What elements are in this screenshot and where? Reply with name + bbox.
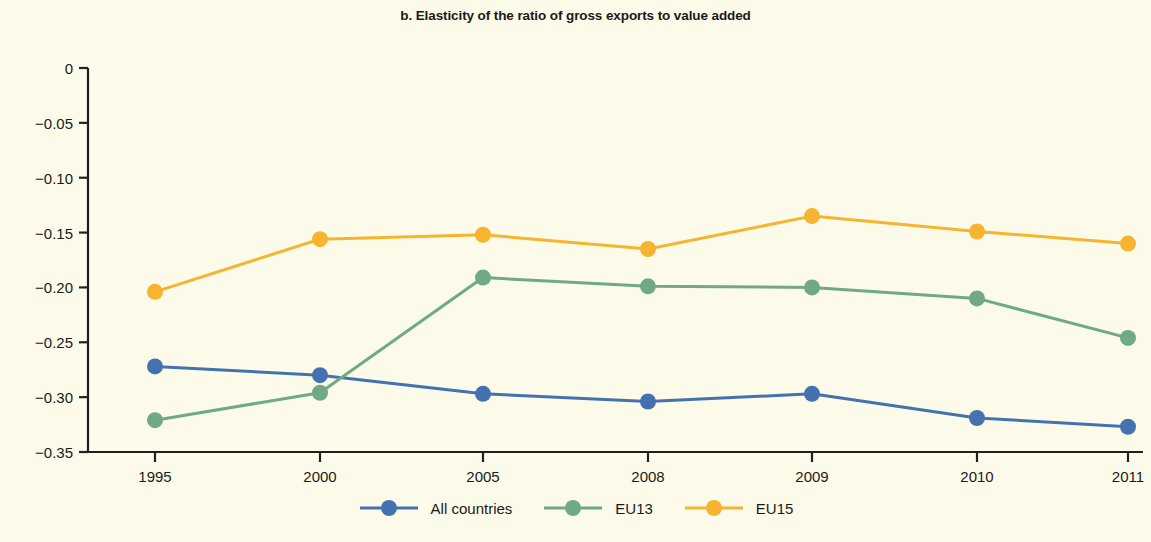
legend-label: EU15 [756, 500, 794, 517]
data-point [804, 208, 820, 224]
x-tick-label: 2000 [303, 468, 336, 485]
y-tick-label: −0.30 [0, 389, 73, 406]
y-tick-label: −0.20 [0, 279, 73, 296]
data-point [147, 284, 163, 300]
data-point [640, 241, 656, 257]
data-point [475, 227, 491, 243]
data-point [147, 358, 163, 374]
legend-swatch-icon [542, 498, 604, 518]
data-point [475, 386, 491, 402]
legend-item-eu15[interactable]: EU15 [683, 498, 794, 518]
x-tick-label: 1995 [138, 468, 171, 485]
data-point [147, 412, 163, 428]
legend-item-all-countries[interactable]: All countries [358, 498, 513, 518]
x-tick-label: 2009 [795, 468, 828, 485]
data-point [1120, 236, 1136, 252]
data-point [312, 385, 328, 401]
legend-swatch-icon [683, 498, 745, 518]
y-tick-label: 0 [0, 60, 73, 77]
y-tick-marks [79, 68, 88, 452]
plot-area [0, 0, 1151, 542]
x-tick-marks [155, 452, 1128, 462]
data-point [1120, 419, 1136, 435]
legend-swatch-icon [358, 498, 420, 518]
x-tick-label: 2010 [960, 468, 993, 485]
y-tick-label: −0.10 [0, 169, 73, 186]
y-tick-label: −0.05 [0, 114, 73, 131]
x-tick-label: 2011 [1112, 468, 1144, 485]
y-tick-label: −0.25 [0, 334, 73, 351]
data-point [969, 290, 985, 306]
chart-figure: b. Elasticity of the ratio of gross expo… [0, 0, 1151, 542]
data-point [640, 394, 656, 410]
data-point [804, 279, 820, 295]
data-point [1120, 330, 1136, 346]
x-tick-label: 2005 [466, 468, 499, 485]
data-point [804, 386, 820, 402]
y-tick-label: −0.35 [0, 444, 73, 461]
legend-label: All countries [431, 500, 513, 517]
data-point [969, 410, 985, 426]
data-point [475, 270, 491, 286]
data-point [312, 231, 328, 247]
data-point [640, 278, 656, 294]
legend-item-eu13[interactable]: EU13 [542, 498, 653, 518]
data-point [312, 367, 328, 383]
data-point [969, 223, 985, 239]
chart-legend: All countriesEU13EU15 [0, 498, 1151, 518]
legend-label: EU13 [615, 500, 653, 517]
y-tick-label: −0.15 [0, 224, 73, 241]
data-series-group [147, 208, 1136, 435]
x-tick-label: 2008 [631, 468, 664, 485]
